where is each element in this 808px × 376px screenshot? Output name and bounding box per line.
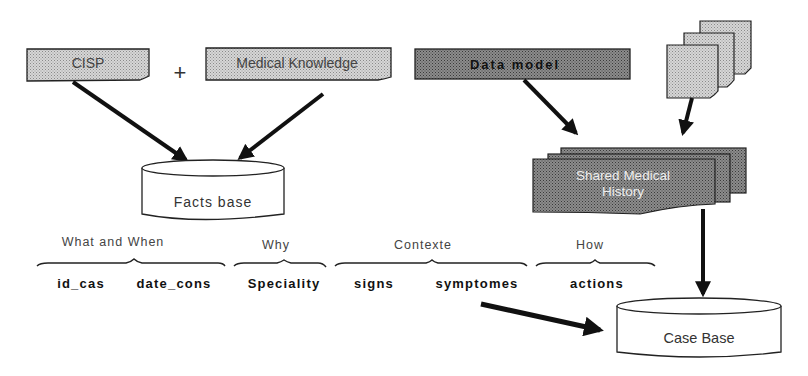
brace-contexte: [335, 260, 527, 266]
plus-sign: +: [174, 60, 187, 85]
facts-base-cylinder: Facts base: [142, 160, 284, 220]
cisp-box: CISP: [27, 49, 149, 81]
arrow-datamodel-to-history: [524, 80, 576, 133]
group-header-what-when: What and When: [62, 235, 165, 249]
field-actions: actions: [570, 276, 624, 291]
group-header-why: Why: [262, 238, 290, 252]
field-date-cons: date_cons: [136, 276, 211, 291]
arrow-knowledge-to-facts: [240, 94, 323, 158]
group-header-how: How: [576, 238, 604, 252]
shared-medical-history-stack: Shared Medical History: [533, 148, 746, 214]
data-model-box: Data model: [415, 49, 630, 79]
medical-knowledge-box: Medical Knowledge: [206, 48, 391, 80]
case-base-label: Case Base: [664, 330, 735, 346]
brace-why: [234, 260, 326, 267]
field-symptomes: symptomes: [435, 276, 518, 291]
arrow-documents-to-history: [683, 98, 692, 133]
group-header-contexte: Contexte: [394, 238, 452, 252]
medical-knowledge-label: Medical Knowledge: [236, 55, 358, 71]
field-id-cas: id_cas: [57, 276, 105, 291]
case-base-cylinder: Case Base: [617, 298, 781, 357]
arrow-cisp-to-facts: [73, 82, 186, 160]
field-signs: signs: [354, 276, 394, 291]
brace-how: [536, 260, 655, 266]
case-base-diagram: CISP + Medical Knowledge Data model Fact…: [0, 0, 808, 376]
field-speciality: Speciality: [248, 276, 321, 291]
cisp-label: CISP: [72, 55, 105, 71]
arrow-fields-to-casebase: [481, 304, 600, 330]
shared-history-line1: Shared Medical: [576, 168, 670, 183]
documents-stack-icon: [667, 21, 751, 98]
facts-base-label: Facts base: [174, 194, 252, 210]
shared-history-line2: History: [602, 184, 644, 199]
brace-what-when: [37, 259, 225, 266]
data-model-label: Data model: [470, 57, 560, 72]
